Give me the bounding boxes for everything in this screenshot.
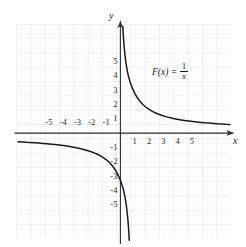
x-tick-label: 5 <box>185 137 199 146</box>
formula-denominator: x <box>180 72 188 81</box>
y-tick-label: -2 <box>103 157 117 166</box>
y-tick-label: -1 <box>103 143 117 152</box>
y-tick-label: 2 <box>103 100 117 109</box>
graph-figure: y x F(x) = 1 x -5-4-3-2-112345 -5-4-3-2-… <box>0 0 246 247</box>
formula-numerator: 1 <box>180 62 189 71</box>
y-tick-label: -5 <box>103 200 117 209</box>
x-tick-label: 1 <box>128 137 142 146</box>
y-tick-label: 1 <box>103 114 117 123</box>
y-tick-label: -3 <box>103 172 117 181</box>
x-tick-label: -4 <box>56 118 70 127</box>
x-axis-label: x <box>233 136 237 146</box>
y-axis-label: y <box>109 11 113 21</box>
plot-canvas <box>0 0 246 247</box>
x-tick-label: -5 <box>42 118 56 127</box>
formula-fraction: 1 x <box>180 62 189 82</box>
function-formula: F(x) = 1 x <box>152 62 188 82</box>
x-tick-label: 3 <box>156 137 170 146</box>
formula-equals-sign: = <box>170 67 177 77</box>
y-tick-label: -4 <box>103 186 117 195</box>
formula-function-name: F(x) <box>152 67 168 77</box>
y-tick-label: 5 <box>103 57 117 66</box>
x-tick-label: -2 <box>85 118 99 127</box>
y-tick-label: 4 <box>103 71 117 80</box>
grid-major <box>16 24 231 239</box>
y-tick-label: 3 <box>103 86 117 95</box>
x-tick-label: 4 <box>171 137 185 146</box>
x-tick-label: -3 <box>71 118 85 127</box>
x-tick-label: 2 <box>142 137 156 146</box>
